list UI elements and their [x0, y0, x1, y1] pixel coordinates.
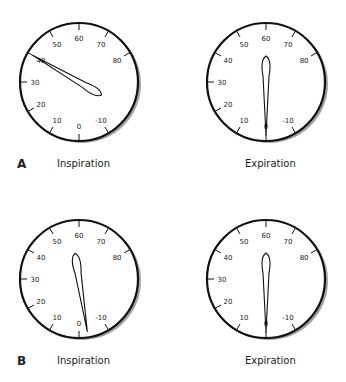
scale-label: 10 — [240, 314, 249, 322]
scale-label: 30 — [31, 79, 40, 87]
scale-label: 80 — [300, 254, 309, 262]
gauge-b-expiration: 01020304050607080-10 — [173, 190, 346, 360]
panel-letter-b: B — [17, 354, 26, 368]
scale-label: 30 — [218, 276, 227, 284]
scale-label: 50 — [53, 41, 62, 49]
scale-label: 20 — [36, 101, 45, 109]
scale-label: 50 — [240, 41, 249, 49]
scale-label: 10 — [53, 314, 62, 322]
caption-b-inspiration: Inspiration — [57, 355, 110, 366]
scale-label: 30 — [31, 276, 40, 284]
scale-label: 50 — [53, 238, 62, 246]
scale-label: 70 — [97, 41, 106, 49]
scale-label: -10 — [282, 314, 293, 322]
scale-label: 40 — [36, 254, 45, 262]
scale-label: -10 — [95, 314, 106, 322]
scale-label: 0 — [77, 320, 81, 328]
scale-label: 10 — [53, 117, 62, 125]
scale-label: 70 — [284, 238, 293, 246]
scale-label: 80 — [113, 57, 122, 65]
scale-label: 60 — [75, 232, 84, 240]
panel-letter-a: A — [17, 157, 26, 171]
scale-label: 40 — [223, 57, 232, 65]
caption-a-inspiration: Inspiration — [57, 158, 110, 169]
scale-label: 80 — [300, 57, 309, 65]
gauge-b-inspiration: 01020304050607080-10 — [0, 190, 173, 360]
scale-label: 60 — [75, 35, 84, 43]
scale-label: 10 — [240, 117, 249, 125]
scale-label: -10 — [282, 117, 293, 125]
scale-label: 60 — [262, 232, 271, 240]
scale-label: 60 — [262, 35, 271, 43]
scale-label: 70 — [284, 41, 293, 49]
scale-label: -10 — [95, 117, 106, 125]
scale-label: 0 — [77, 123, 81, 131]
scale-label: 20 — [36, 298, 45, 306]
gauge-a-inspiration: 01020304050607080-10 — [0, 0, 173, 160]
scale-label: 40 — [223, 254, 232, 262]
scale-label: 80 — [113, 254, 122, 262]
gauge-a-expiration: 01020304050607080-10 — [173, 0, 346, 160]
scale-label: 70 — [97, 238, 106, 246]
caption-b-expiration: Expiration — [245, 355, 296, 366]
scale-label: 50 — [240, 238, 249, 246]
caption-a-expiration: Expiration — [245, 158, 296, 169]
scale-label: 20 — [223, 101, 232, 109]
scale-label: 20 — [223, 298, 232, 306]
scale-label: 30 — [218, 79, 227, 87]
